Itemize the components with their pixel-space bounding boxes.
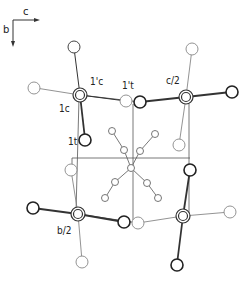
crystal-structure-diagram: c b <box>0 0 245 281</box>
bonds-top-left <box>36 48 140 139</box>
metal-atom-top-right <box>179 90 193 104</box>
b-axis-label: b <box>3 24 9 35</box>
b-axis-arrow-icon <box>11 41 15 47</box>
ligand-atoms <box>27 41 238 271</box>
axes-indicator: c b <box>3 6 40 47</box>
label-1c: 1c <box>59 103 70 114</box>
metal-atoms <box>71 88 193 223</box>
cell-lines <box>72 98 190 220</box>
label-1t: 1t <box>68 136 78 147</box>
metal-atom-top-left <box>73 88 87 102</box>
c-axis-arrow-icon <box>34 18 40 22</box>
c-axis-label: c <box>23 6 29 17</box>
label-1-prime-c: 1'c <box>90 76 103 87</box>
label-c-half: c/2 <box>166 75 180 86</box>
label-b-half: b/2 <box>57 225 71 236</box>
metal-atom-bottom-right <box>176 209 190 223</box>
metal-atom-bottom-left <box>71 207 85 221</box>
label-1-prime-t: 1't <box>122 80 134 91</box>
